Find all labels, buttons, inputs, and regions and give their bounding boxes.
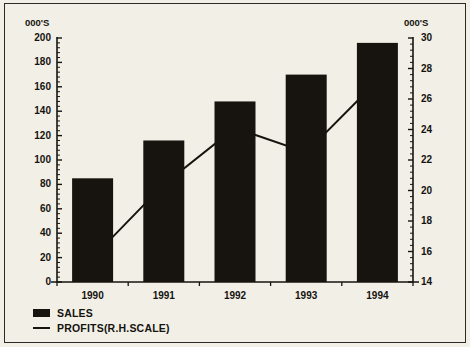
right-tick-label-28: 28 [421, 64, 455, 74]
left-tick-label-40: 40 [17, 228, 51, 238]
category-label-1991: 1991 [134, 290, 194, 301]
bar-1990 [72, 178, 113, 282]
legend-item-sales: SALES [33, 305, 170, 320]
legend-line-swatch-icon [33, 327, 50, 329]
legend-label-profits: PROFITS(R.H.SCALE) [57, 322, 170, 334]
category-label-1990: 1990 [63, 290, 123, 301]
bar-1991 [143, 140, 184, 282]
bar-1994 [357, 43, 398, 282]
left-tick-label-20: 20 [17, 253, 51, 263]
bar-1993 [286, 75, 327, 282]
right-tick-label-26: 26 [421, 94, 455, 104]
left-tick-label-100: 100 [17, 155, 51, 165]
right-tick-label-14: 14 [421, 277, 455, 287]
left-tick-label-180: 180 [17, 57, 51, 67]
right-tick-label-22: 22 [421, 155, 455, 165]
right-tick-label-20: 20 [421, 186, 455, 196]
left-tick-label-0: 0 [17, 277, 51, 287]
chart-container: 000'S 000'S 020406080100120140160180200 … [0, 0, 470, 347]
left-tick-label-160: 160 [17, 82, 51, 92]
right-tick-label-30: 30 [421, 33, 455, 43]
right-tick-label-16: 16 [421, 247, 455, 257]
left-tick-label-80: 80 [17, 179, 51, 189]
right-tick-label-18: 18 [421, 216, 455, 226]
left-tick-label-60: 60 [17, 204, 51, 214]
chart-legend: SALES PROFITS(R.H.SCALE) [33, 305, 170, 335]
legend-bar-swatch-icon [33, 309, 50, 317]
bars-group [72, 43, 398, 282]
right-tick-label-24: 24 [421, 125, 455, 135]
legend-label-sales: SALES [57, 307, 93, 319]
left-tick-label-200: 200 [17, 33, 51, 43]
legend-item-profits: PROFITS(R.H.SCALE) [33, 320, 170, 335]
category-label-1993: 1993 [276, 290, 336, 301]
left-tick-label-140: 140 [17, 106, 51, 116]
category-label-1992: 1992 [205, 290, 265, 301]
left-tick-label-120: 120 [17, 131, 51, 141]
category-label-1994: 1994 [347, 290, 407, 301]
